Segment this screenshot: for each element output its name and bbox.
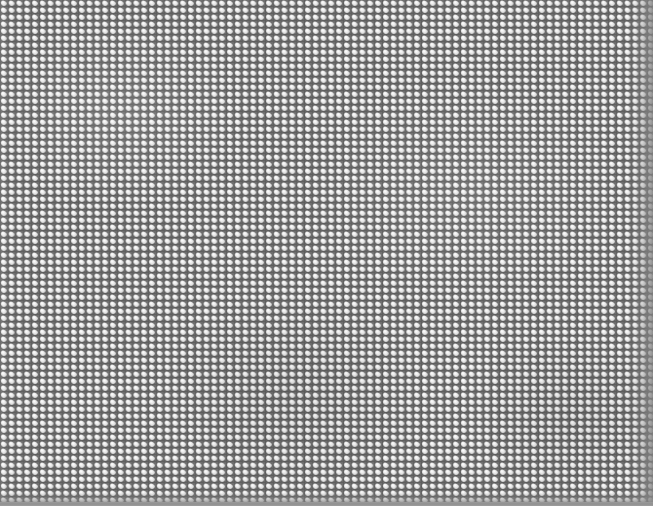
mesh-texture-canvas (0, 0, 653, 506)
mesh-bead-grid-pattern (0, 0, 653, 506)
